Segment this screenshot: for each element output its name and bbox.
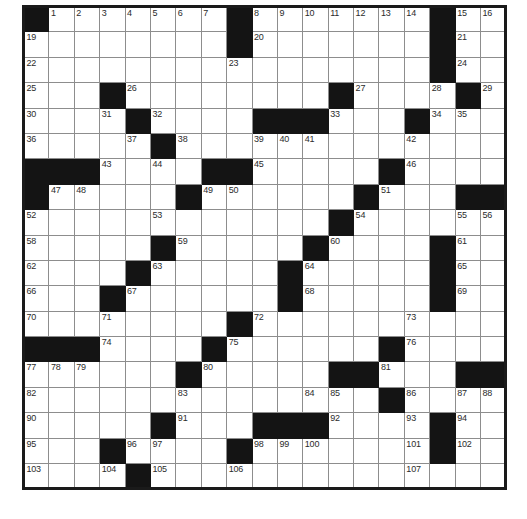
crossword-cell[interactable] (303, 337, 328, 362)
crossword-cell[interactable] (201, 108, 226, 133)
crossword-cell[interactable] (354, 311, 379, 336)
crossword-cell[interactable] (277, 83, 302, 108)
crossword-cell[interactable] (176, 260, 201, 285)
crossword-cell[interactable] (379, 57, 404, 82)
crossword-cell[interactable] (379, 260, 404, 285)
crossword-cell[interactable] (354, 286, 379, 311)
crossword-cell[interactable]: 32 (150, 108, 175, 133)
crossword-cell[interactable]: 98 (252, 438, 277, 463)
crossword-cell[interactable] (481, 133, 506, 158)
crossword-cell[interactable] (150, 184, 175, 209)
crossword-cell[interactable] (74, 108, 99, 133)
crossword-cell[interactable] (328, 57, 353, 82)
crossword-cell[interactable] (100, 413, 125, 438)
crossword-cell[interactable] (125, 210, 150, 235)
crossword-cell[interactable] (74, 464, 99, 489)
crossword-cell[interactable] (354, 159, 379, 184)
crossword-cell[interactable] (201, 32, 226, 57)
crossword-cell[interactable] (328, 32, 353, 57)
crossword-cell[interactable] (125, 387, 150, 412)
crossword-cell[interactable]: 99 (277, 438, 302, 463)
crossword-cell[interactable]: 12 (354, 7, 379, 32)
crossword-cell[interactable] (328, 337, 353, 362)
crossword-cell[interactable] (328, 184, 353, 209)
crossword-cell[interactable] (404, 83, 429, 108)
crossword-cell[interactable] (150, 286, 175, 311)
crossword-cell[interactable] (49, 464, 74, 489)
crossword-cell[interactable] (227, 83, 252, 108)
crossword-cell[interactable] (303, 210, 328, 235)
crossword-cell[interactable] (49, 260, 74, 285)
crossword-cell[interactable] (49, 32, 74, 57)
crossword-cell[interactable]: 42 (404, 133, 429, 158)
crossword-cell[interactable]: 7 (201, 7, 226, 32)
crossword-cell[interactable] (227, 387, 252, 412)
crossword-cell[interactable] (404, 210, 429, 235)
crossword-cell[interactable]: 94 (455, 413, 480, 438)
crossword-cell[interactable] (49, 57, 74, 82)
crossword-cell[interactable] (252, 57, 277, 82)
crossword-cell[interactable] (201, 260, 226, 285)
crossword-cell[interactable] (100, 57, 125, 82)
crossword-cell[interactable] (328, 159, 353, 184)
crossword-cell[interactable]: 48 (74, 184, 99, 209)
crossword-cell[interactable]: 77 (24, 362, 49, 387)
crossword-cell[interactable] (481, 32, 506, 57)
crossword-cell[interactable] (201, 83, 226, 108)
crossword-cell[interactable] (277, 159, 302, 184)
crossword-cell[interactable]: 27 (354, 83, 379, 108)
crossword-cell[interactable]: 68 (303, 286, 328, 311)
crossword-cell[interactable] (176, 311, 201, 336)
crossword-cell[interactable] (49, 210, 74, 235)
crossword-cell[interactable] (354, 464, 379, 489)
crossword-cell[interactable] (277, 184, 302, 209)
crossword-cell[interactable] (277, 362, 302, 387)
crossword-cell[interactable] (481, 108, 506, 133)
crossword-cell[interactable] (100, 184, 125, 209)
crossword-cell[interactable] (404, 362, 429, 387)
crossword-cell[interactable] (100, 32, 125, 57)
crossword-cell[interactable] (328, 311, 353, 336)
crossword-cell[interactable] (201, 438, 226, 463)
crossword-cell[interactable] (455, 464, 480, 489)
crossword-cell[interactable]: 10 (303, 7, 328, 32)
crossword-cell[interactable] (481, 337, 506, 362)
crossword-cell[interactable] (354, 57, 379, 82)
crossword-cell[interactable] (227, 108, 252, 133)
crossword-cell[interactable] (481, 57, 506, 82)
crossword-cell[interactable]: 54 (354, 210, 379, 235)
crossword-cell[interactable]: 71 (100, 311, 125, 336)
crossword-cell[interactable] (74, 235, 99, 260)
crossword-cell[interactable] (201, 133, 226, 158)
crossword-cell[interactable] (201, 311, 226, 336)
crossword-cell[interactable] (379, 311, 404, 336)
crossword-cell[interactable] (252, 464, 277, 489)
crossword-cell[interactable] (252, 235, 277, 260)
crossword-cell[interactable] (430, 159, 455, 184)
crossword-cell[interactable]: 28 (430, 83, 455, 108)
crossword-cell[interactable] (49, 108, 74, 133)
crossword-cell[interactable] (277, 210, 302, 235)
crossword-cell[interactable] (176, 57, 201, 82)
crossword-cell[interactable] (303, 83, 328, 108)
crossword-cell[interactable] (227, 260, 252, 285)
crossword-cell[interactable] (379, 235, 404, 260)
crossword-cell[interactable]: 51 (379, 184, 404, 209)
crossword-cell[interactable] (49, 413, 74, 438)
crossword-cell[interactable] (252, 337, 277, 362)
crossword-cell[interactable]: 8 (252, 7, 277, 32)
crossword-cell[interactable] (227, 362, 252, 387)
crossword-cell[interactable] (379, 438, 404, 463)
crossword-cell[interactable] (74, 286, 99, 311)
crossword-cell[interactable] (49, 387, 74, 412)
crossword-cell[interactable]: 46 (404, 159, 429, 184)
crossword-cell[interactable] (404, 235, 429, 260)
crossword-cell[interactable] (74, 413, 99, 438)
crossword-cell[interactable] (252, 260, 277, 285)
crossword-cell[interactable]: 39 (252, 133, 277, 158)
crossword-cell[interactable]: 65 (455, 260, 480, 285)
crossword-cell[interactable] (176, 32, 201, 57)
crossword-cell[interactable] (328, 438, 353, 463)
crossword-cell[interactable] (303, 464, 328, 489)
crossword-cell[interactable] (252, 362, 277, 387)
